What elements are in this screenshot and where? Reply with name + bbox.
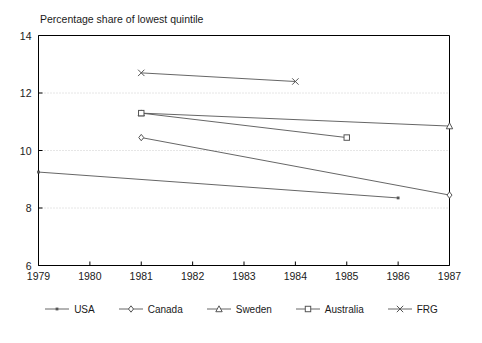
x-axis-tick-labels: 197919801981198219831984198519861987 xyxy=(27,270,462,282)
legend-item-usa[interactable]: USA xyxy=(44,303,95,315)
svg-text:1987: 1987 xyxy=(438,270,462,282)
chart-axes xyxy=(39,36,450,266)
series-sweden xyxy=(138,110,453,129)
svg-text:1984: 1984 xyxy=(284,270,308,282)
svg-text:1982: 1982 xyxy=(181,270,205,282)
y-axis-tick-labels: 68101214 xyxy=(20,30,32,272)
svg-text:1979: 1979 xyxy=(27,270,51,282)
svg-text:1983: 1983 xyxy=(232,270,256,282)
legend-label: Australia xyxy=(325,304,364,315)
legend-label: USA xyxy=(74,304,95,315)
svg-text:1986: 1986 xyxy=(386,270,410,282)
legend-label: Sweden xyxy=(236,304,272,315)
gridlines xyxy=(39,93,450,208)
legend-item-sweden[interactable]: Sweden xyxy=(206,303,272,315)
chart-plot-area: 68101214 1979198019811982198319841985198… xyxy=(0,0,482,343)
data-series-group xyxy=(37,70,453,200)
series-australia xyxy=(139,110,350,140)
series-frg xyxy=(138,70,299,85)
square-marker-icon xyxy=(295,303,321,315)
svg-text:10: 10 xyxy=(20,145,32,157)
diamond-marker-icon xyxy=(118,303,144,315)
series-canada xyxy=(139,134,452,198)
tick-marks xyxy=(39,36,450,266)
chart-legend: USACanadaSwedenAustraliaFRG xyxy=(0,303,482,315)
chart-container: Percentage share of lowest quintile 6810… xyxy=(0,0,482,343)
filled-dot-marker-icon xyxy=(44,303,70,315)
legend-item-canada[interactable]: Canada xyxy=(118,303,183,315)
svg-text:1981: 1981 xyxy=(130,270,154,282)
legend-item-australia[interactable]: Australia xyxy=(295,303,364,315)
svg-text:1980: 1980 xyxy=(78,270,102,282)
triangle-marker-icon xyxy=(206,303,232,315)
cross-marker-icon xyxy=(387,303,413,315)
svg-text:14: 14 xyxy=(20,30,32,42)
legend-label: FRG xyxy=(417,304,438,315)
svg-text:8: 8 xyxy=(26,202,32,214)
series-usa xyxy=(37,171,399,200)
svg-text:1985: 1985 xyxy=(335,270,359,282)
legend-item-frg[interactable]: FRG xyxy=(387,303,438,315)
svg-text:12: 12 xyxy=(20,87,32,99)
legend-label: Canada xyxy=(148,304,183,315)
